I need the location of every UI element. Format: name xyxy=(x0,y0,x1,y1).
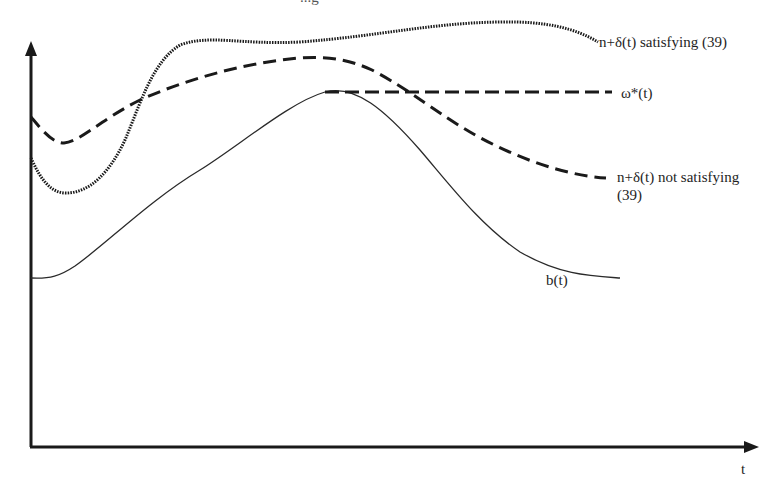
series-not-satisfying xyxy=(31,58,606,179)
label-satisfying: n+δ(t) satisfying (39) xyxy=(599,33,727,51)
label-not-satisfying: n+δ(t) not satisfying xyxy=(617,168,739,186)
x-axis-label: t xyxy=(741,460,745,477)
label-b: b(t) xyxy=(546,271,568,289)
x-axis-arrow-icon xyxy=(744,441,759,453)
chart-canvas xyxy=(0,0,782,477)
label-not-satisfying-ref: (39) xyxy=(617,186,642,204)
series-satisfying xyxy=(31,22,598,193)
series-b xyxy=(31,91,620,279)
y-axis-arrow-icon xyxy=(25,41,37,56)
clipped-title-fragment: ...g xyxy=(300,0,319,6)
label-omega-star: ω*(t) xyxy=(621,84,653,102)
figure: ...g n+δ(t) satisfying (39) ω*(t) n+δ(t)… xyxy=(0,0,782,477)
